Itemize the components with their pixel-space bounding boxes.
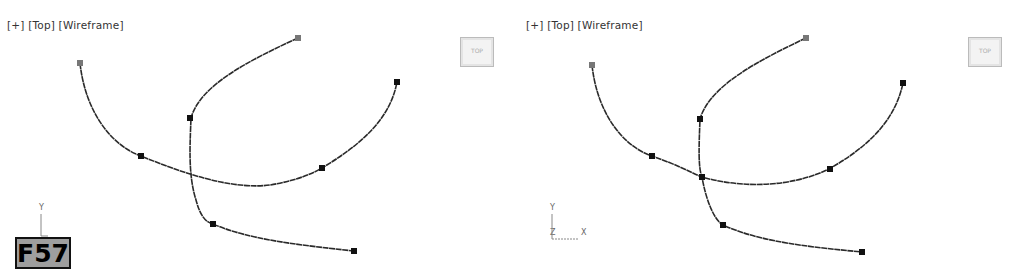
axis-y-label: Y [39,203,44,212]
axis-gizmo: Y [39,203,44,212]
vertex [649,153,655,159]
vertex [720,222,726,228]
vertex-intersection [699,174,705,180]
vertex [827,166,833,172]
spline-a [592,65,903,184]
vertex-first [77,60,83,66]
axis-z-label: Z [550,228,555,237]
axis-y-label: Y [550,203,555,212]
axis-x-label: X [581,228,586,237]
vertex [210,221,216,227]
vertex [187,115,193,121]
vertex [394,79,400,85]
vertex [319,165,325,171]
vertex [138,153,144,159]
figure-badge: F57 [15,237,71,269]
spline-b [190,38,354,251]
viewport-top-left[interactable]: [+] [Top] [Wireframe] TOP Y F57 [0,0,506,273]
vertex [859,249,865,255]
spline-b [699,38,862,252]
vertex-first [803,35,809,41]
spline-shapes [0,0,506,273]
vertex [697,116,703,122]
viewport-top-right[interactable]: [+] [Top] [Wireframe] TOP Y Z X [506,0,1012,273]
spline-a [80,63,397,186]
vertex [900,80,906,86]
axis-gizmo: Y [550,203,555,212]
vertex [351,248,357,254]
vertex-first [295,35,301,41]
vertex-first [589,62,595,68]
